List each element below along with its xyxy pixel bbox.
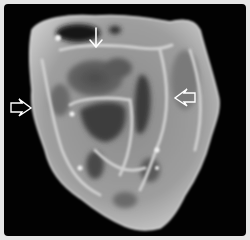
arrow-left-icon (11, 99, 31, 116)
image-panel (4, 4, 246, 236)
image-frame (0, 0, 250, 240)
specimen-rendering (4, 4, 246, 236)
